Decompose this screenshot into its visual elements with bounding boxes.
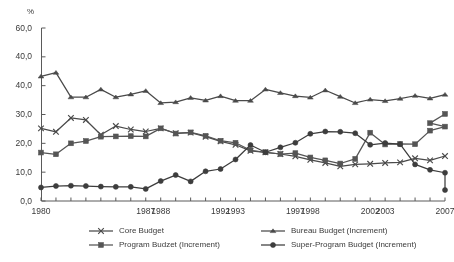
data-point-marker — [53, 184, 58, 189]
x-axis-tick-label: 2003 — [376, 206, 395, 216]
data-point-marker — [353, 131, 358, 136]
data-point-marker — [322, 88, 328, 92]
cross-marker-icon — [88, 226, 114, 236]
data-point-marker — [308, 131, 313, 136]
data-point-marker — [98, 184, 103, 189]
data-point-marker — [293, 140, 298, 145]
x-axis-tick-label: 2007 — [436, 206, 454, 216]
data-point-marker — [338, 161, 343, 166]
data-point-marker — [353, 157, 358, 162]
data-point-marker — [293, 151, 298, 156]
data-point-marker — [143, 134, 148, 139]
data-point-marker — [248, 148, 253, 153]
data-point-marker — [203, 169, 208, 174]
x-axis-tick-label: 1993 — [226, 206, 245, 216]
data-point-marker — [98, 87, 104, 91]
data-point-marker — [54, 152, 59, 157]
data-point-marker — [68, 183, 73, 188]
data-point-marker — [248, 143, 253, 148]
series-2 — [38, 70, 448, 104]
data-point-marker — [99, 243, 104, 248]
data-point-marker — [83, 184, 88, 189]
data-point-marker — [188, 96, 194, 100]
data-point-marker — [203, 133, 208, 138]
y-axis-tick-label: 0,0 — [2, 197, 32, 206]
data-point-marker — [158, 179, 163, 184]
data-point-marker — [263, 87, 269, 91]
data-point-marker — [218, 94, 224, 98]
data-point-marker — [98, 134, 103, 139]
data-point-marker — [233, 140, 238, 145]
data-point-marker — [308, 155, 313, 160]
data-point-marker — [278, 152, 283, 157]
data-point-marker — [263, 150, 268, 155]
data-point-marker — [413, 162, 418, 167]
data-point-marker — [188, 130, 193, 135]
axis-spine — [42, 28, 446, 201]
data-point-marker — [412, 94, 418, 98]
chart-legend: Core Budget Bureau Budget (Increment) Pr… — [0, 224, 451, 258]
data-point-marker — [218, 166, 223, 171]
y-axis-tick-label: 10,0 — [2, 168, 32, 177]
data-point-marker — [383, 141, 388, 146]
data-point-marker — [188, 179, 193, 184]
legend-item-bureau-budget: Bureau Budget (Increment) — [260, 226, 388, 236]
data-point-marker — [128, 184, 133, 189]
y-axis-tick-label: 30,0 — [2, 110, 32, 119]
data-point-marker — [128, 134, 133, 139]
legend-label: Bureau Budget (Increment) — [291, 226, 388, 236]
data-point-marker — [443, 112, 448, 117]
legend-item-core-budget: Core Budget — [88, 226, 164, 236]
data-point-marker — [39, 150, 44, 155]
data-point-marker — [233, 157, 238, 162]
x-axis-tick-label: 1980 — [32, 206, 51, 216]
data-point-marker — [158, 126, 163, 131]
data-point-marker — [271, 243, 276, 248]
data-point-marker — [83, 139, 88, 144]
data-point-marker — [278, 145, 283, 150]
data-point-marker — [323, 129, 328, 134]
y-axis-unit-label: % — [27, 7, 34, 16]
data-point-marker — [173, 173, 178, 178]
x-axis-tick-label: 1988 — [151, 206, 170, 216]
legend-label: Core Budget — [119, 226, 164, 236]
y-axis-tick-label: 40,0 — [2, 52, 32, 61]
square-marker-icon — [88, 240, 114, 250]
data-point-marker — [39, 185, 44, 190]
data-point-marker — [69, 141, 74, 146]
data-point-marker — [338, 129, 343, 134]
data-point-marker — [173, 131, 178, 136]
dash-marker-icon — [260, 226, 286, 236]
legend-item-program-budget: Program Budzet (Increment) — [88, 240, 220, 250]
data-point-marker — [143, 186, 148, 191]
legend-label: Program Budzet (Increment) — [119, 240, 220, 250]
data-point-marker — [113, 134, 118, 139]
data-point-marker — [398, 142, 403, 147]
y-axis-tick-label: 40,0 — [2, 81, 32, 90]
y-axis-tick-label: 20,0 — [2, 139, 32, 148]
data-point-marker — [368, 142, 373, 147]
y-axis-tick-label: 60,0 — [2, 24, 32, 33]
data-point-marker — [323, 158, 328, 163]
data-point-marker — [143, 89, 149, 93]
data-point-marker — [442, 92, 448, 96]
legend-label: Super-Program Budget (Increment) — [291, 240, 416, 250]
data-point-marker — [413, 142, 418, 147]
data-point-marker — [428, 167, 433, 172]
circle-marker-icon — [260, 240, 286, 250]
data-point-marker — [53, 70, 59, 74]
series-line — [41, 132, 445, 189]
data-point-marker — [368, 130, 373, 135]
x-axis-tick-label: 1998 — [301, 206, 320, 216]
legend-item-super-program-budget: Super-Program Budget (Increment) — [260, 240, 416, 250]
data-point-marker — [113, 184, 118, 189]
data-point-marker — [218, 138, 223, 143]
data-point-marker — [428, 128, 433, 133]
plot-area — [41, 28, 445, 201]
chart-svg — [41, 28, 445, 201]
